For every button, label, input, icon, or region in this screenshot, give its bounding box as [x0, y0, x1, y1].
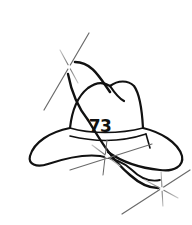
hat-number: 73	[89, 116, 112, 136]
sparkle-icon	[44, 33, 89, 110]
sparkle-icon	[70, 140, 152, 175]
cowboy-hat-illustration: 73	[0, 0, 192, 225]
orbit-swoosh	[68, 62, 158, 188]
